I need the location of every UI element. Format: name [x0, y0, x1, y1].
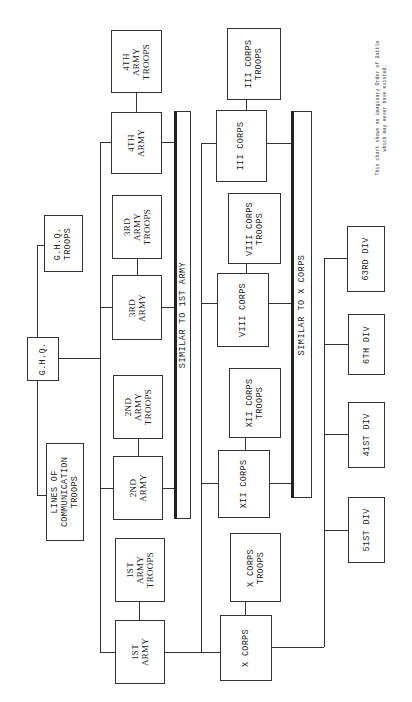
- similar-to-1st-army-bar: SIMILAR TO 1ST ARMY: [174, 111, 191, 519]
- army-4-box: 4TH ARMY: [111, 112, 162, 174]
- army-3-troops-label: 3RD ARMY TROOPS: [122, 209, 152, 245]
- army-1-troops-box: 1ST ARMY TROOPS: [115, 538, 165, 602]
- connector: [270, 483, 291, 484]
- similar-to-1st-army-label: SIMILAR TO 1ST ARMY: [179, 262, 189, 368]
- viii-corps-box: VIII CORPS: [217, 273, 269, 347]
- iii-corps-label: III CORPS: [236, 122, 246, 171]
- iii-corps-box: III CORPS: [216, 110, 267, 182]
- connector: [37, 381, 38, 495]
- connector: [272, 647, 324, 648]
- ghq-troops-box: G.H.Q. TROOPS: [44, 215, 83, 272]
- connector: [100, 307, 112, 308]
- connector: [246, 100, 247, 110]
- connector: [267, 143, 291, 144]
- army-2-troops-label: 2ND ARMY TROOPS: [123, 389, 153, 425]
- connector: [136, 93, 137, 112]
- division-spine-line: [324, 258, 325, 647]
- army-4-label: 4TH ARMY: [127, 129, 147, 157]
- iii-corps-troops-box: III CORPS TROOPS: [227, 28, 281, 100]
- army-4-troops-label: 4TH ARMY TROOPS: [122, 43, 152, 79]
- army-3-box: 3RD ARMY: [112, 275, 162, 340]
- connector: [324, 258, 347, 259]
- connector: [269, 303, 291, 304]
- connector: [201, 303, 217, 304]
- connector: [100, 142, 111, 143]
- xii-corps-troops-label: XII CORPS TROOPS: [245, 379, 265, 428]
- div-41st-box: 41ST DIV: [348, 402, 385, 468]
- connector: [245, 602, 246, 615]
- army-2-box: 2ND ARMY: [113, 456, 163, 520]
- connector: [137, 259, 138, 275]
- x-corps-box: X CORPS: [220, 615, 272, 681]
- div-63rd-box: 63RD DIV: [347, 226, 385, 292]
- army-3-troops-box: 3RD ARMY TROOPS: [112, 195, 162, 259]
- connector: [324, 434, 348, 435]
- connector: [100, 488, 113, 489]
- div-51st-box: 51ST DIV: [348, 497, 385, 563]
- connector: [37, 245, 38, 337]
- connector: [139, 602, 140, 620]
- viii-corps-troops-box: VIII CORPS TROOPS: [228, 193, 281, 264]
- army-4-troops-box: 4TH ARMY TROOPS: [111, 30, 162, 93]
- disclaimer-text: This chart shows an imaginary Order of B…: [375, 40, 389, 175]
- army-1-troops-label: 1ST ARMY TROOPS: [125, 552, 155, 588]
- connector: [324, 530, 348, 531]
- connector: [37, 495, 46, 496]
- connector: [201, 143, 216, 144]
- connector: [246, 264, 247, 273]
- loc-troops-label: LINES OF COMMUNICATION TROOPS: [50, 457, 80, 527]
- div-6th-label: 6TH DIV: [362, 326, 372, 364]
- corps-spine-line: [201, 143, 202, 652]
- x-corps-troops-box: X CORPS TROOPS: [230, 533, 281, 602]
- army-3-label: 3RD ARMY: [127, 293, 147, 321]
- viii-corps-label: VIII CORPS: [238, 283, 248, 337]
- similar-to-x-corps-bar: SIMILAR TO X CORPS: [291, 111, 312, 498]
- ghq-troops-label: G.H.Q. TROOPS: [54, 227, 74, 259]
- xii-corps-troops-box: XII CORPS TROOPS: [229, 368, 281, 438]
- div-51st-label: 51ST DIV: [362, 508, 372, 551]
- xii-corps-box: XII CORPS: [218, 450, 270, 518]
- army-1-box: 1ST ARMY: [115, 620, 165, 684]
- connector: [165, 652, 220, 653]
- army-1-label: 1ST ARMY: [130, 638, 150, 666]
- div-63rd-label: 63RD DIV: [361, 237, 371, 280]
- connector: [37, 245, 44, 246]
- connector: [245, 438, 246, 450]
- connector: [59, 358, 100, 359]
- viii-corps-troops-label: VIII CORPS TROOPS: [245, 201, 265, 255]
- connector: [138, 439, 139, 456]
- iii-corps-troops-label: III CORPS TROOPS: [244, 40, 264, 89]
- disclaimer-note: This chart shows an imaginary Order of B…: [362, 25, 402, 190]
- connector: [324, 344, 348, 345]
- connector: [201, 483, 218, 484]
- x-corps-label: X CORPS: [241, 629, 251, 667]
- similar-to-x-corps-label: SIMILAR TO X CORPS: [298, 254, 308, 355]
- ghq-box: G.H.Q.: [27, 337, 59, 381]
- div-6th-box: 6TH DIV: [348, 314, 385, 375]
- div-41st-label: 41ST DIV: [362, 413, 372, 456]
- x-corps-troops-label: X CORPS TROOPS: [246, 549, 266, 587]
- army-2-label: 2ND ARMY: [128, 474, 148, 502]
- loc-troops-box: LINES OF COMMUNICATION TROOPS: [46, 443, 84, 541]
- ghq-label: G.H.Q.: [38, 343, 48, 375]
- connector: [100, 652, 115, 653]
- xii-corps-label: XII CORPS: [239, 460, 249, 509]
- army-2-troops-box: 2ND ARMY TROOPS: [113, 375, 163, 439]
- army-spine-line: [100, 142, 101, 652]
